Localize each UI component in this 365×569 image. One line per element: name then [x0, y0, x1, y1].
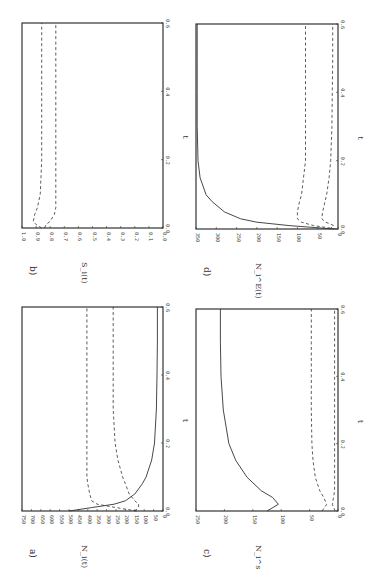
panel-label: d)	[202, 267, 212, 276]
x-tick-label: 0.2	[340, 157, 346, 166]
series-dashed-1	[33, 23, 41, 228]
x-tick-label: 0.4	[165, 371, 171, 380]
series-dashed-1	[297, 24, 336, 229]
panel-b: 1.00.90.80.70.60.50.40.30.20.10.00.00.20…	[21, 19, 190, 284]
y-tick-label: 150	[134, 515, 140, 524]
y-tick-label: 250	[236, 233, 242, 242]
x-tick-label: 0.6	[165, 303, 171, 312]
x-tick-label: 0.4	[165, 87, 171, 96]
y-axis-label: N_i^E(t)	[254, 263, 263, 299]
x-tick-label: 0.0	[165, 507, 171, 516]
y-tick-label: 100	[280, 515, 286, 524]
y-tick-label: 100	[296, 233, 302, 242]
x-axis-label: t	[356, 420, 365, 424]
y-tick-label: 200	[256, 233, 262, 242]
x-tick-label: 0.4	[340, 372, 346, 381]
plot-frame	[196, 24, 338, 229]
y-tick-label: 650	[40, 515, 46, 524]
series-dashed-2	[322, 24, 334, 229]
x-tick-label: 0.0	[340, 507, 346, 516]
x-axis-label: t	[181, 419, 190, 423]
x-axis-label: t	[181, 136, 190, 140]
x-tick-label: 0.0	[165, 224, 171, 233]
y-tick-label: 200	[124, 515, 130, 524]
y-tick-label: 550	[59, 515, 65, 524]
y-tick-label: 0.1	[148, 232, 154, 241]
y-tick-label: 0.7	[63, 232, 69, 241]
y-tick-label: 750	[21, 515, 27, 524]
series-dashed-2	[45, 23, 56, 228]
y-tick-label: 0.3	[120, 232, 126, 241]
x-tick-label: 0.0	[340, 225, 346, 234]
x-tick-label: 0.6	[340, 20, 346, 29]
y-axis-label: S_i(t)	[80, 262, 89, 284]
plot-frame	[22, 23, 163, 228]
x-tick-label: 0.4	[340, 88, 346, 97]
y-tick-label: 500	[68, 515, 74, 524]
y-tick-label: 1.0	[21, 232, 27, 241]
x-tick-label: 0.2	[340, 440, 346, 449]
y-tick-label: 0.0	[162, 232, 168, 241]
y-tick-label: 0.2	[134, 232, 140, 241]
x-tick-label: 0.6	[340, 305, 346, 314]
panel-label: c)	[202, 549, 212, 558]
y-tick-label: 300	[215, 233, 221, 242]
y-tick-label: 350	[195, 233, 201, 242]
y-tick-label: 300	[106, 515, 112, 524]
x-tick-label: 0.2	[165, 439, 171, 448]
y-tick-label: 100	[143, 515, 149, 524]
y-tick-label: 200	[223, 515, 229, 524]
y-tick-label: 250	[195, 515, 201, 524]
y-tick-label: 0.9	[35, 232, 41, 241]
series-dashed-2	[113, 307, 138, 511]
x-axis-label: t	[356, 137, 365, 141]
y-tick-label: 50	[153, 515, 159, 521]
figure: 7507006506005505004504003503002502001501…	[0, 0, 365, 569]
y-tick-label: 350	[96, 515, 102, 524]
series-solid	[197, 24, 334, 229]
y-tick-label: 50	[317, 233, 323, 239]
y-tick-label: 250	[115, 515, 121, 524]
series-dashed-2	[332, 309, 335, 511]
y-axis-label: N_i(t)	[80, 545, 89, 568]
y-tick-label: 0.6	[77, 232, 83, 241]
series-solid	[220, 309, 278, 511]
y-tick-label: 600	[49, 515, 55, 524]
x-tick-label: 0.2	[165, 156, 171, 165]
panel-c: 2502001501005000.00.20.40.6tc)N_i^s(t)	[195, 305, 365, 569]
y-tick-label: 450	[77, 515, 83, 524]
y-tick-label: 0.8	[49, 232, 55, 241]
y-tick-label: 50	[309, 515, 315, 521]
y-tick-label: 400	[87, 515, 93, 524]
panel-label: a)	[28, 549, 38, 558]
y-tick-label: 700	[30, 515, 36, 524]
y-tick-label: 0.5	[92, 232, 98, 241]
panel-a: 7507006506005505004504003503002502001501…	[21, 303, 190, 568]
series-dashed-1	[87, 307, 137, 511]
panel-d: 3503002502001501005000.00.20.40.6td)N_i^…	[195, 20, 365, 299]
panel-label: b)	[28, 266, 38, 275]
y-tick-label: 150	[276, 233, 282, 242]
series-dashed-1	[311, 309, 326, 511]
plot-frame	[22, 307, 163, 511]
y-tick-label: 0.4	[106, 232, 112, 241]
series-solid	[69, 307, 157, 511]
y-axis-label: N_i^s(t)	[254, 545, 263, 569]
y-tick-label: 150	[252, 515, 258, 524]
x-tick-label: 0.6	[165, 19, 171, 28]
